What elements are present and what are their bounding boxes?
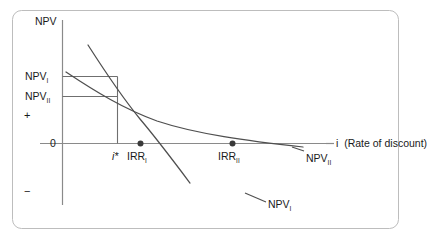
marker-irr-2: [230, 141, 236, 147]
x-tick-label-irr-1-subscript: I: [145, 157, 147, 164]
x-tick-label-irr-2: IRRII: [218, 151, 240, 162]
curve-label-npv-1: NPVI: [268, 199, 292, 210]
value-label-npv-2-subscript: II: [47, 97, 51, 104]
positive-sign-label: +: [24, 110, 30, 121]
zero-label: 0: [50, 138, 56, 149]
negative-sign-label: −: [24, 186, 30, 197]
x-tick-label-irr-2-subscript: II: [236, 157, 240, 164]
value-label-npv-1: NPVI: [25, 71, 49, 82]
marker-irr-1: [138, 141, 144, 147]
x-axis-title: i (Rate of discount): [336, 138, 427, 149]
curve-label-npv-2: NPVII: [306, 153, 332, 164]
x-tick-label-istar: i*: [112, 151, 118, 162]
curve-label-npv-2-base: NPV: [306, 152, 328, 164]
x-tick-label-irr-1-base: IRR: [127, 150, 145, 162]
value-label-npv-2: NPVII: [25, 91, 51, 102]
curve-label-npv-1-base: NPV: [268, 198, 290, 210]
x-tick-label-istar-suffix: *: [114, 150, 118, 162]
curve-npv-2: [66, 72, 303, 147]
x-tick-label-irr-1: IRRI: [127, 151, 147, 162]
x-tick-label-irr-2-base: IRR: [218, 150, 236, 162]
value-label-npv-1-subscript: I: [47, 77, 49, 84]
curve-label-npv-1-subscript: I: [290, 205, 292, 212]
value-label-npv-2-base: NPV: [25, 90, 47, 102]
y-axis-label: NPV: [35, 16, 57, 27]
value-label-npv-1-base: NPV: [25, 70, 47, 82]
curve-label-npv-2-subscript: II: [328, 159, 332, 166]
x-axis-title-text: (Rate of discount): [344, 137, 427, 149]
figure-border: [13, 11, 399, 229]
